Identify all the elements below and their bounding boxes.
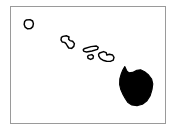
island-hawaii-big-island[interactable] xyxy=(120,67,153,106)
lanai-outline[interactable] xyxy=(88,55,94,60)
maui-outline[interactable] xyxy=(99,52,114,62)
hawaii-map-figure xyxy=(0,0,175,134)
island-lanai[interactable] xyxy=(88,55,94,60)
island-maui[interactable] xyxy=(99,52,114,62)
kauai-outline[interactable] xyxy=(24,20,33,29)
hawaii-filled-shape[interactable] xyxy=(120,67,153,106)
molokai-outline[interactable] xyxy=(83,46,98,52)
island-oahu[interactable] xyxy=(61,36,74,49)
island-chain-layer xyxy=(0,0,175,134)
island-kauai[interactable] xyxy=(24,20,33,29)
oahu-outline[interactable] xyxy=(61,36,74,49)
island-molokai[interactable] xyxy=(83,46,98,52)
